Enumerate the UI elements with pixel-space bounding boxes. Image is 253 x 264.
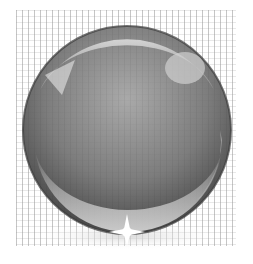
image-canvas <box>0 0 253 264</box>
sphere-body <box>23 26 231 234</box>
glass-sphere-illustration <box>0 0 253 264</box>
sphere-right-highlight <box>165 52 205 84</box>
